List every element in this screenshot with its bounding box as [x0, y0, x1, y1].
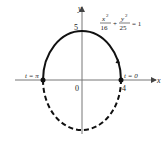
svg-text:16: 16: [101, 24, 109, 32]
ellipse-diagram: y x 5 4 0 t = π t = 0 x 2 16 + y 2 25 = …: [0, 0, 164, 143]
svg-text:2: 2: [125, 13, 128, 18]
svg-text:2: 2: [106, 13, 109, 18]
y-axis-label: y: [77, 4, 82, 13]
t-pi-label: t = π: [25, 72, 39, 80]
origin-label: 0: [75, 84, 79, 93]
svg-text:= 1: = 1: [132, 20, 142, 28]
ellipse-equation: x 2 16 + y 2 25 = 1: [100, 13, 142, 32]
point-t-0: [119, 78, 124, 83]
point-t-pi: [41, 78, 46, 83]
y-tick-label: 5: [74, 23, 78, 32]
svg-text:25: 25: [120, 24, 128, 32]
svg-text:+: +: [113, 20, 117, 28]
direction-arrow-icon: [116, 59, 121, 64]
x-tick-label: 4: [122, 84, 126, 93]
t-0-label: t = 0: [124, 72, 138, 80]
x-axis-label: x: [156, 76, 161, 85]
